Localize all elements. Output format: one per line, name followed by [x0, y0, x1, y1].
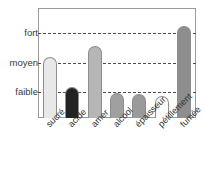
- xaxis-labels: sucré acide amer alcool épaisseur pétill…: [0, 118, 205, 169]
- ytick-label-fort: fort: [24, 28, 38, 38]
- ytick-label-moyen: moyen: [9, 58, 38, 68]
- bar-sucre[interactable]: [43, 57, 57, 118]
- bar-chart: fort moyen faible sucré acide amer alcoo…: [0, 0, 205, 169]
- ytick-label-faible: faible: [15, 87, 38, 97]
- bars-container: [39, 9, 195, 118]
- bar-amer[interactable]: [88, 46, 102, 118]
